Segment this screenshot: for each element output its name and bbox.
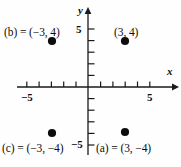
point-label-top-right: (3, 4) [114, 27, 138, 39]
y-axis-tick-label-neg5: −5 [71, 139, 83, 150]
data-point-a [121, 128, 129, 136]
y-axis-tick-label-pos5: 5 [76, 24, 82, 35]
point-label-a: (a) = (3, −4) [96, 143, 151, 155]
point-label-b: (b) = (−3, 4) [4, 27, 60, 39]
data-point-c [48, 129, 56, 137]
coordinate-plane-figure: (b) = (−3, 4) (3, 4) (c) = (−3, −4) (a) … [0, 0, 181, 167]
point-label-c: (c) = (−3, −4) [2, 143, 63, 155]
x-axis-tick-label-neg5: −5 [21, 92, 33, 103]
x-axis-variable-label: x [167, 66, 173, 77]
y-axis-variable-label: y [78, 5, 83, 16]
x-axis-tick-label-pos5: 5 [147, 92, 153, 103]
y-axis-arrowhead [85, 7, 92, 14]
x-axis-arrowhead [172, 84, 179, 91]
